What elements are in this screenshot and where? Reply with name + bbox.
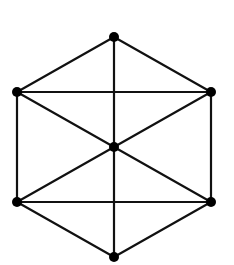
node-upper-right <box>206 87 216 97</box>
node-bottom <box>109 252 119 262</box>
edge-top-upper-left <box>17 37 114 92</box>
edge-lower-left-bottom <box>17 202 114 257</box>
node-lower-left <box>12 197 22 207</box>
edge-lower-right-bottom <box>114 202 211 257</box>
node-lower-right <box>206 197 216 207</box>
node-center <box>109 142 119 152</box>
edge-upper-right-center <box>114 92 211 147</box>
edge-center-lower-right <box>114 147 211 202</box>
node-upper-left <box>12 87 22 97</box>
graph-diagram <box>0 0 234 265</box>
edge-center-lower-left <box>17 147 114 202</box>
edge-top-upper-right <box>114 37 211 92</box>
node-top <box>109 32 119 42</box>
edge-upper-left-center <box>17 92 114 147</box>
